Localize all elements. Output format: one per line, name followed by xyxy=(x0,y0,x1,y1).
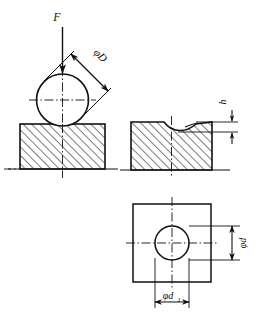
technical-drawing-svg: F φD xyxy=(0,0,262,326)
engineering-drawing-canvas: F φD xyxy=(0,0,262,326)
ball-diameter-label: φD xyxy=(92,46,110,64)
impression-diameter-label: φd xyxy=(237,237,248,249)
specimen-hatch-left-half xyxy=(20,124,63,169)
force-label: F xyxy=(52,10,61,24)
plan-view-group: φd φd 1 xyxy=(126,197,248,308)
impression-diameter-1-label: φd xyxy=(163,290,175,301)
right-view-group: h xyxy=(120,100,238,179)
specimen-hatch-right-half xyxy=(63,124,106,169)
left-view-group: F φD xyxy=(4,10,118,178)
impression-diameter-1-subscript: 1 xyxy=(177,296,181,304)
depth-label: h xyxy=(217,100,228,105)
